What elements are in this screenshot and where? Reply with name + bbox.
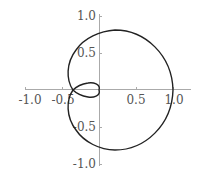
y-tick-label: -0.5 bbox=[73, 120, 96, 134]
y-tick-label: 0.5 bbox=[77, 46, 96, 60]
x-axis: -1.0 -0.5 0.5 1.0 bbox=[18, 87, 191, 107]
x-tick-label: 0.5 bbox=[126, 93, 145, 107]
x-tick-label: 1.0 bbox=[164, 93, 183, 107]
chart: -1.0 -0.5 0.5 1.0 1.0 0.5 -0.5 -1.0 bbox=[0, 0, 201, 179]
y-tick-label: 1.0 bbox=[77, 9, 96, 23]
x-tick-label: -1.0 bbox=[18, 93, 41, 107]
y-tick-label: -1.0 bbox=[73, 157, 96, 171]
x-tick-label: -0.5 bbox=[51, 93, 74, 107]
